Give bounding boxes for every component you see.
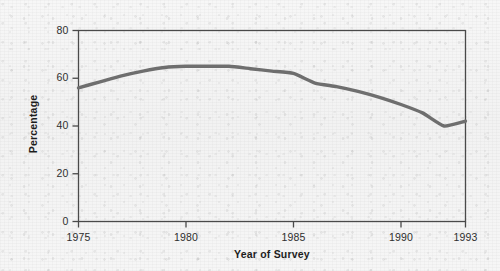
data-series-group [79,66,466,126]
chart-figure: 020406080 19751980198519901993 Percentag… [0,0,500,271]
x-tick-label: 1990 [376,231,426,243]
axes [73,31,466,228]
y-axis-ticks [73,31,79,222]
x-tick-label: 1993 [441,231,491,243]
plot-border [79,31,466,222]
y-axis-title: Percentage [27,74,39,174]
x-tick-label: 1980 [161,231,211,243]
x-tick-label: 1975 [54,231,104,243]
y-tick-label: 80 [31,24,69,36]
x-axis-ticks [79,222,466,228]
data-line [79,66,466,126]
x-axis-title: Year of Survey [182,248,362,260]
y-tick-label: 0 [31,215,69,227]
x-tick-label: 1985 [269,231,319,243]
